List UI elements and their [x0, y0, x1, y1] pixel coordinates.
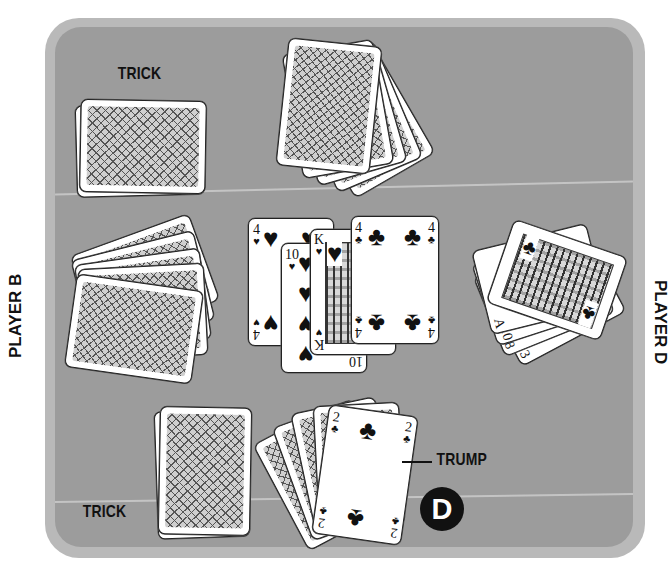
suit-icon: ♥: [253, 236, 260, 247]
suit-icon: ♣: [428, 315, 435, 326]
heart-icon: ♥: [263, 225, 278, 251]
club-icon: ♣: [345, 505, 366, 533]
trump-leader-line: [402, 461, 432, 463]
card-rank: 4: [253, 327, 260, 342]
heart-icon: ♥: [327, 240, 342, 266]
card-back: [276, 37, 383, 174]
suit-icon: ♥: [285, 261, 299, 272]
trump-card-2-clubs[interactable]: 2♣ ♣ 2♣ ♣ 2♣ 2♣: [311, 404, 418, 545]
suit-icon: ♣: [428, 234, 435, 245]
card-back: [79, 99, 207, 194]
card-rank: 4: [428, 325, 435, 340]
card-rank: 10: [349, 354, 363, 369]
card-back: [64, 274, 204, 385]
club-icon: ♣: [404, 311, 421, 337]
suit-icon: ♥: [314, 246, 324, 257]
suit-icon: ♥: [253, 317, 260, 328]
suit-icon: ♣: [391, 515, 400, 527]
suit-icon: ♣: [402, 433, 411, 445]
club-icon: ♣: [368, 311, 385, 337]
club-icon: ♣: [404, 223, 421, 249]
dealer-button[interactable]: D: [420, 487, 464, 531]
card-4-clubs[interactable]: 4♣ ♣ ♣ 4♣ ♣ ♣ 4♣ 4♣: [351, 216, 439, 344]
trick-label-bottom: TRICK: [83, 502, 126, 522]
suit-icon: ♣: [355, 234, 362, 245]
suit-icon: ♣: [330, 423, 339, 435]
card-rank: 4: [355, 325, 362, 340]
card-back: [158, 406, 252, 536]
heart-icon: ♥: [263, 311, 278, 337]
card-rank: K: [314, 337, 324, 352]
suit-icon: ♣: [355, 315, 362, 326]
card-rank: A: [491, 317, 508, 330]
suit-icon: ♣: [319, 505, 328, 517]
dealer-letter: D: [420, 491, 464, 527]
club-icon: ♣: [368, 223, 385, 249]
trump-label: TRUMP: [437, 450, 487, 470]
player-d-label: PLAYER D: [650, 280, 669, 364]
player-b-label: PLAYER B: [6, 274, 26, 358]
trick-label-top: TRICK: [118, 64, 161, 84]
club-icon: ♣: [358, 416, 379, 444]
